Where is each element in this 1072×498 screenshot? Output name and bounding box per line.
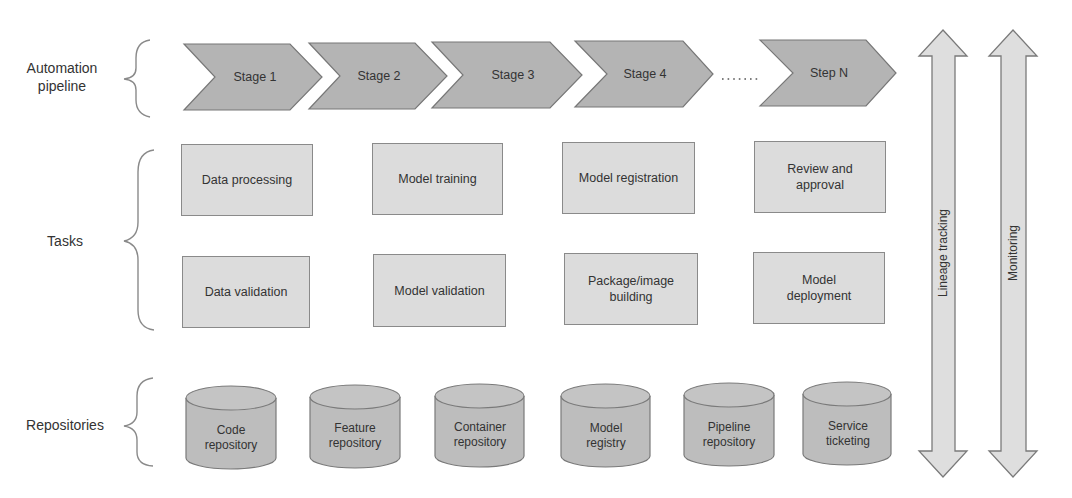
repo-code-label: Code repository — [186, 423, 276, 453]
repo-label-line2: repository — [435, 435, 525, 450]
stage-4-label: Stage 4 — [600, 65, 690, 83]
repo-container-label: Container repository — [435, 420, 525, 450]
repo-label-line2: registry — [561, 436, 651, 451]
row-label-tasks: Tasks — [30, 232, 100, 250]
repo-feature-label: Feature repository — [310, 421, 400, 451]
repo-label-line2: repository — [684, 435, 774, 450]
row-label-line1: Automation — [12, 59, 112, 77]
repo-label-line1: Feature — [310, 421, 400, 436]
task-review-and-approval: Review and approval — [754, 141, 886, 213]
repo-pipeline-label: Pipeline repository — [684, 420, 774, 450]
row-label-line2: pipeline — [12, 77, 112, 95]
stage-3-label: Stage 3 — [468, 66, 558, 84]
task-package-image-building: Package/image building — [564, 253, 698, 325]
repo-label-line1: Service — [803, 419, 893, 434]
task-model-validation: Model validation — [373, 254, 506, 327]
task-data-processing: Data processing — [181, 144, 313, 216]
monitoring-label: Monitoring — [1005, 173, 1021, 333]
repo-label-line2: repository — [186, 438, 276, 453]
lineage-tracking-label: Lineage tracking — [935, 173, 951, 333]
repo-label-line1: Pipeline — [684, 420, 774, 435]
task-model-registration: Model registration — [562, 142, 695, 214]
pipeline-brace — [124, 40, 150, 117]
repo-service-ticketing-label: Service ticketing — [803, 419, 893, 449]
repo-model-registry-label: Model registry — [561, 421, 651, 451]
stage-2-label: Stage 2 — [334, 67, 424, 85]
repositories-brace — [124, 378, 153, 466]
task-model-training: Model training — [372, 143, 503, 215]
repo-label-line1: Code — [186, 423, 276, 438]
step-n-label: Step N — [784, 64, 874, 82]
tasks-brace — [124, 150, 154, 330]
repo-label-line2: repository — [310, 436, 400, 451]
task-model-deployment: Model deployment — [753, 252, 885, 324]
stage-1-label: Stage 1 — [210, 68, 300, 86]
task-data-validation: Data validation — [182, 256, 310, 328]
repo-label-line2: ticketing — [803, 434, 893, 449]
row-label-repositories: Repositories — [10, 416, 120, 434]
repo-label-line1: Model — [561, 421, 651, 436]
row-label-automation-pipeline: Automation pipeline — [12, 59, 112, 95]
repo-label-line1: Container — [435, 420, 525, 435]
